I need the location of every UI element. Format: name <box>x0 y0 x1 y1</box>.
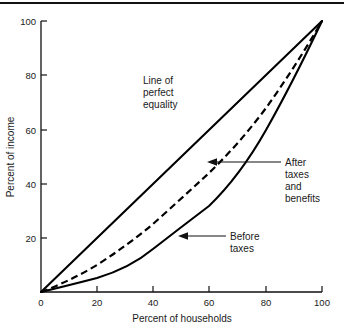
curve-line-of-perfect-equality <box>41 21 322 292</box>
x-tick-label-40: 40 <box>148 297 159 308</box>
x-tick-label-80: 80 <box>261 297 272 308</box>
after-label-line-4: benefits <box>285 193 320 204</box>
chart-canvas: 100 80 60 40 20 0 20 40 60 80 100 Percen… <box>0 0 344 331</box>
x-tick-label-100: 100 <box>314 297 330 308</box>
equality-label-line-3: equality <box>143 99 177 110</box>
y-tick-label-40: 40 <box>25 179 36 190</box>
equality-label-line-2: perfect <box>143 87 174 98</box>
y-tick-label-20: 20 <box>25 233 36 244</box>
equality-label-line-1: Line of <box>143 75 173 86</box>
y-axis-title: Percent of income <box>5 116 16 197</box>
annotation-after-taxes-and-benefits: After taxes and benefits <box>207 157 320 204</box>
before-arrow-icon <box>178 232 188 240</box>
y-tick-marks <box>41 21 47 238</box>
y-tick-label-80: 80 <box>25 70 36 81</box>
x-tick-label-0: 0 <box>38 297 43 308</box>
y-tick-label-60: 60 <box>25 125 36 136</box>
y-tick-label-100: 100 <box>20 16 36 27</box>
after-label-line-2: taxes <box>285 169 309 180</box>
lorenz-curve-figure: 100 80 60 40 20 0 20 40 60 80 100 Percen… <box>0 0 344 331</box>
after-label-line-3: and <box>285 181 302 192</box>
after-label-line-1: After <box>285 157 307 168</box>
y-tick-labels: 100 80 60 40 20 <box>20 16 36 244</box>
before-label-line-2: taxes <box>230 243 254 254</box>
after-arrow-icon <box>207 158 217 166</box>
x-tick-labels: 0 20 40 60 80 100 <box>38 297 330 308</box>
x-axis-title: Percent of households <box>132 313 232 324</box>
annotation-line-of-perfect-equality: Line of perfect equality <box>143 75 177 110</box>
x-tick-label-60: 60 <box>204 297 215 308</box>
x-tick-label-20: 20 <box>92 297 103 308</box>
before-label-line-1: Before <box>230 231 260 242</box>
x-tick-marks <box>97 286 322 292</box>
annotation-before-taxes: Before taxes <box>178 231 260 254</box>
